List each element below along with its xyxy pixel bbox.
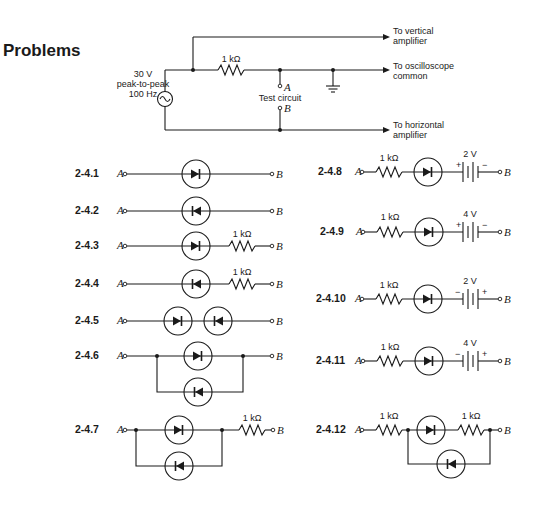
svg-text:2-4.5: 2-4.5 — [75, 314, 99, 326]
svg-text:To oscilloscope: To oscilloscope — [393, 61, 454, 71]
problem-2-4-2: 2-4.2 A B — [75, 197, 283, 225]
problem-2-4-3: 2-4.3 A 1 kΩ B — [75, 229, 283, 260]
problem-2-4-6: 2-4.6 A B — [75, 342, 283, 406]
problem-2-4-4: 2-4.4 A 1 kΩ B — [75, 267, 283, 298]
svg-text:2-4.1: 2-4.1 — [75, 167, 99, 179]
svg-text:A: A — [116, 423, 124, 435]
problem-2-4-9: 2-4.9 A 1 kΩ 4 V + − B — [320, 209, 511, 246]
svg-text:+: + — [456, 220, 461, 230]
svg-text:100 Hz: 100 Hz — [129, 89, 158, 99]
svg-text:B: B — [277, 424, 284, 436]
svg-text:2-4.11: 2-4.11 — [316, 354, 345, 366]
svg-text:A: A — [116, 167, 124, 179]
svg-text:Test circuit: Test circuit — [259, 93, 302, 103]
problem-2-4-1: 2-4.1 A B — [75, 160, 283, 188]
svg-text:B: B — [504, 424, 511, 436]
svg-text:2 V: 2 V — [463, 149, 477, 159]
test-setup-circuit: 1 kΩ 30 V peak-to-peak 100 Hz A Test cir… — [117, 26, 454, 140]
svg-text:1 kΩ: 1 kΩ — [380, 411, 399, 421]
svg-text:1 kΩ: 1 kΩ — [243, 413, 262, 423]
svg-text:2-4.8: 2-4.8 — [318, 165, 342, 177]
svg-text:B: B — [504, 355, 511, 367]
svg-text:1 kΩ: 1 kΩ — [233, 229, 252, 239]
svg-text:To vertical: To vertical — [393, 26, 434, 36]
svg-text:1 kΩ: 1 kΩ — [233, 267, 252, 277]
svg-text:−: − — [482, 160, 487, 170]
svg-text:−: − — [482, 220, 487, 230]
svg-text:B: B — [504, 226, 511, 238]
problem-2-4-5: 2-4.5 A B — [75, 307, 283, 335]
svg-text:2-4.10: 2-4.10 — [316, 292, 346, 304]
svg-text:common: common — [393, 71, 428, 81]
svg-text:B: B — [276, 278, 283, 290]
svg-text:B: B — [284, 102, 291, 114]
svg-text:A: A — [116, 349, 124, 361]
svg-text:B: B — [504, 166, 511, 178]
svg-text:1 kΩ: 1 kΩ — [381, 342, 400, 352]
svg-text:2-4.3: 2-4.3 — [75, 239, 99, 251]
svg-text:B: B — [276, 350, 283, 362]
svg-text:1 kΩ: 1 kΩ — [381, 212, 400, 222]
svg-text:2-4.2: 2-4.2 — [75, 204, 99, 216]
svg-text:1 kΩ: 1 kΩ — [380, 280, 399, 290]
svg-text:A: A — [116, 277, 124, 289]
svg-text:+: + — [482, 287, 487, 297]
problem-2-4-10: 2-4.10 A 1 kΩ 2 V − + B — [316, 276, 511, 313]
svg-text:B: B — [276, 240, 283, 252]
svg-text:A: A — [283, 81, 291, 93]
svg-text:B: B — [276, 168, 283, 180]
svg-text:1 kΩ: 1 kΩ — [462, 411, 481, 421]
svg-text:+: + — [456, 160, 461, 170]
svg-text:4 V: 4 V — [463, 338, 477, 348]
svg-text:peak-to-peak: peak-to-peak — [117, 79, 170, 89]
svg-text:2-4.9: 2-4.9 — [320, 225, 344, 237]
problem-2-4-8: 2-4.8 A 1 kΩ 2 V + − B — [318, 149, 511, 186]
svg-text:2-4.7: 2-4.7 — [75, 423, 99, 435]
svg-text:A: A — [116, 314, 124, 326]
svg-text:2 V: 2 V — [463, 276, 477, 286]
svg-text:amplifier: amplifier — [393, 130, 427, 140]
svg-text:B: B — [504, 293, 511, 305]
svg-text:1 kΩ: 1 kΩ — [380, 153, 399, 163]
svg-text:+: + — [482, 349, 487, 359]
svg-text:30 V: 30 V — [134, 69, 153, 79]
svg-text:2-4.6: 2-4.6 — [75, 349, 99, 361]
problem-2-4-12: 2-4.12 A 1 kΩ 1 kΩ B — [316, 411, 511, 478]
svg-text:A: A — [116, 204, 124, 216]
problem-2-4-11: 2-4.11 A 1 kΩ 4 V − + B — [316, 338, 511, 375]
svg-text:B: B — [276, 205, 283, 217]
svg-text:4 V: 4 V — [463, 209, 477, 219]
svg-text:amplifier: amplifier — [393, 36, 427, 46]
svg-text:−: − — [455, 287, 460, 297]
svg-text:To horizontal: To horizontal — [393, 120, 444, 130]
svg-text:−: − — [455, 349, 460, 359]
circuit-diagrams: 1 kΩ 30 V peak-to-peak 100 Hz A Test cir… — [0, 0, 535, 510]
svg-text:A: A — [116, 239, 124, 251]
svg-text:B: B — [276, 315, 283, 327]
problem-2-4-7: 2-4.7 A 1 kΩ B — [75, 413, 284, 480]
svg-text:1 kΩ: 1 kΩ — [222, 54, 241, 64]
svg-text:2-4.12: 2-4.12 — [316, 423, 346, 435]
svg-text:2-4.4: 2-4.4 — [75, 277, 99, 289]
svg-text:A: A — [354, 354, 362, 366]
